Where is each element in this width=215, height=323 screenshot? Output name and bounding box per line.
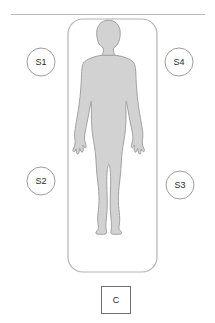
- sensor-label-s2: S2: [35, 176, 46, 186]
- sensor-label-s1: S1: [35, 57, 46, 67]
- sensor-label-s4: S4: [173, 57, 184, 67]
- sensor-bed-diagram: S1 S4 S2 S3 C: [0, 0, 215, 323]
- sensor-node-s1[interactable]: S1: [27, 48, 55, 76]
- sensor-node-s2[interactable]: S2: [27, 167, 55, 195]
- controller-node-c[interactable]: C: [102, 287, 131, 314]
- sensor-node-s4[interactable]: S4: [165, 48, 193, 76]
- human-body-silhouette: [73, 20, 145, 234]
- controller-label-c: C: [113, 295, 120, 305]
- head-shape: [97, 20, 121, 55]
- sensor-node-s3[interactable]: S3: [166, 171, 194, 199]
- sensor-label-s3: S3: [174, 180, 185, 190]
- torso-limbs-shape: [73, 55, 145, 234]
- diagram-canvas: S1 S4 S2 S3 C: [0, 0, 215, 323]
